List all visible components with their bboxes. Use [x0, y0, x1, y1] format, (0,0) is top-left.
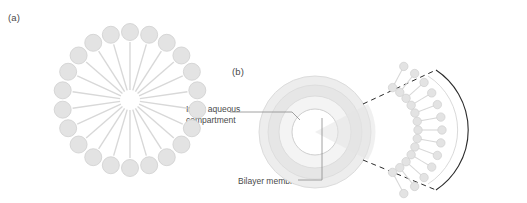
bilayer-lipid-head	[388, 83, 396, 91]
bilayer-lipid-head	[414, 126, 422, 134]
lipid-head	[141, 26, 158, 43]
micelle-diagram	[0, 0, 230, 203]
lipid-head	[183, 120, 200, 137]
bilayer-lipid-head	[400, 62, 408, 70]
liposome-diagram	[230, 60, 527, 203]
lipid-head	[158, 34, 175, 51]
lipid-head	[54, 82, 71, 99]
lipid-head	[183, 63, 200, 80]
bilayer-lipid-head	[411, 143, 419, 151]
bilayer-lipid-head	[410, 182, 418, 190]
micelle-svg	[0, 0, 230, 203]
lipid-tail	[99, 51, 125, 91]
bilayer-lipid-head	[407, 101, 415, 109]
lipid-tail	[135, 51, 161, 91]
lipid-head	[122, 160, 139, 177]
lipid-head	[70, 136, 87, 153]
lipid-head	[60, 120, 77, 137]
lipid-head	[60, 63, 77, 80]
bilayer-lipid-head	[388, 168, 396, 176]
lipid-head	[122, 24, 139, 41]
lipid-tail	[114, 44, 128, 90]
bilayer-lipid-head	[428, 89, 436, 97]
lipid-head	[70, 47, 87, 64]
lipid-tail	[133, 110, 147, 156]
lipid-head	[173, 47, 190, 64]
lipid-head	[189, 82, 206, 99]
lipid-head	[85, 34, 102, 51]
micelle-lipids	[54, 24, 206, 177]
bilayer-lipid-head	[413, 117, 421, 125]
lipid-head	[141, 157, 158, 174]
lipid-tail	[135, 108, 161, 148]
bilayer-lipid-head	[413, 134, 421, 142]
liposome-svg	[230, 60, 527, 203]
bilayer-lipid-head	[437, 139, 445, 147]
bilayer-lipid-head	[428, 163, 436, 171]
bilayer-lipid-head	[437, 113, 445, 121]
magnified-bilayer-lipids	[388, 62, 446, 198]
bilayer-lipid-head	[400, 189, 408, 197]
lipid-head	[102, 157, 119, 174]
bilayer-lipid-head	[420, 173, 428, 181]
lipid-head	[54, 101, 71, 118]
lipid-tail	[99, 108, 125, 148]
lipid-head	[158, 149, 175, 166]
bilayer-lipid-head	[402, 94, 410, 102]
lipid-tail	[133, 44, 147, 90]
lipid-tail	[114, 110, 128, 156]
bilayer-lipid-head	[433, 100, 441, 108]
bilayer-lipid-head	[410, 69, 418, 77]
bilayer-lipid-head	[407, 151, 415, 159]
bilayer-lipid-head	[438, 126, 446, 134]
bilayer-lipid-head	[411, 109, 419, 117]
lipid-head	[173, 136, 190, 153]
bilayer-lipid-head	[433, 151, 441, 159]
bilayer-lipid-head	[396, 163, 404, 171]
lipid-head	[102, 26, 119, 43]
lipid-head	[189, 101, 206, 118]
lipid-head	[85, 149, 102, 166]
bilayer-lipid-head	[420, 78, 428, 86]
